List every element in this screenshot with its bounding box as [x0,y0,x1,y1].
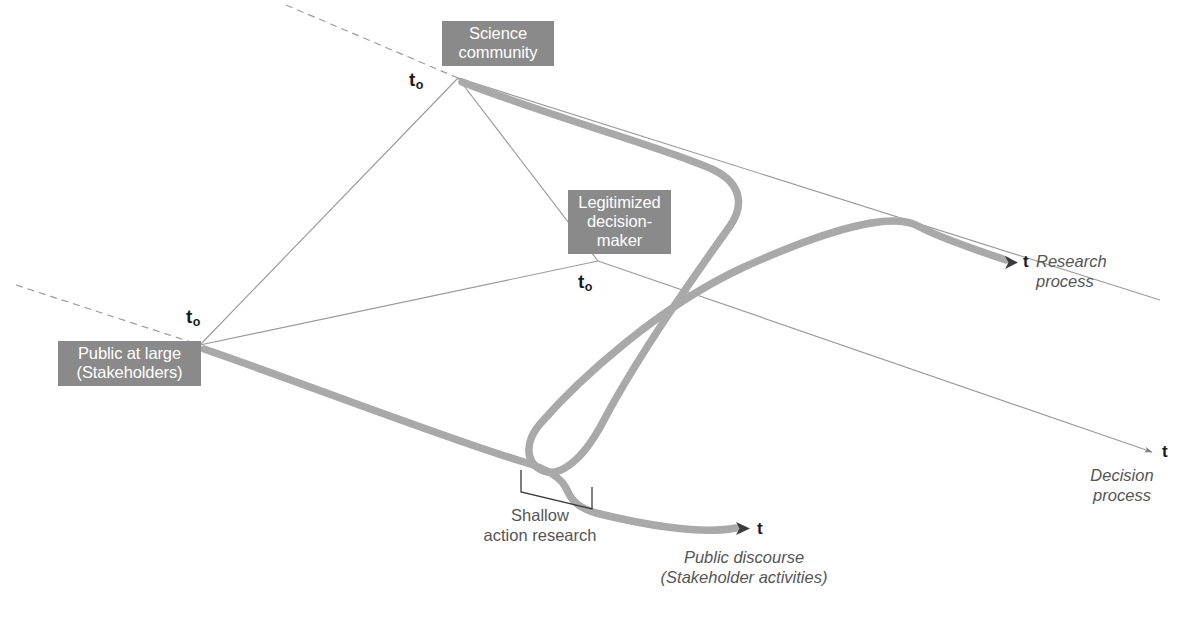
curve-public-discourse [204,349,736,530]
dashed-line-science [286,5,458,78]
node-legitimized-decision-maker[interactable]: Legitimized decision- maker [568,190,671,254]
t0-label-legitimized-decision-maker: to [578,272,592,291]
process-curves [204,82,1006,530]
t0-label-science-community: to [409,70,423,89]
t0-subscript: o [585,280,593,294]
axis-caption-public-discourse: Public discourse (Stakeholder activities… [594,548,894,587]
axis-tick-decision-process: t [1162,443,1168,460]
t0-label-public-at-large: to [186,307,200,326]
t0-subscript: o [416,78,424,92]
curve-research-process [462,82,1006,472]
dashed-line-public [16,285,200,345]
process-arrowheads [736,256,1018,535]
edge-public-to-decisionmaker [200,261,598,345]
diagram-canvas: Science community Legitimized decision- … [0,0,1188,617]
node-science-community[interactable]: Science community [442,21,554,66]
axis-tick-public-discourse: t [757,520,763,537]
t0-base: t [409,69,415,90]
axis-tick-research-process: t [1023,253,1029,270]
t0-base: t [578,271,584,292]
node-public-at-large[interactable]: Public at large (Stakeholders) [58,341,201,386]
edge-science-to-public [200,78,458,345]
t0-base: t [186,306,192,327]
annotation-shallow-action-research: Shallow action research [440,505,640,545]
axis-caption-decision-process: Decision process [1063,466,1181,505]
t0-subscript: o [193,315,201,329]
axis-caption-research-process: Research process [1036,252,1176,291]
